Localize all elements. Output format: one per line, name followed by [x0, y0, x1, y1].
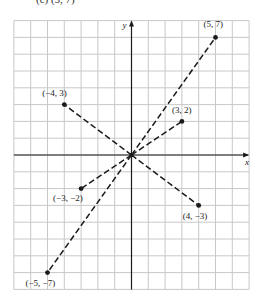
point-label: (−5, −7)	[26, 278, 56, 288]
dashed-segment	[48, 155, 132, 273]
point-label: (−4, 3)	[42, 88, 67, 98]
data-point	[62, 102, 67, 107]
dashed-segment	[132, 37, 216, 155]
point-label: (3, 2)	[172, 105, 192, 115]
point-label: (5, 7)	[204, 19, 224, 29]
data-point	[79, 186, 84, 191]
point-label: (4, −3)	[183, 211, 208, 221]
y-axis-label: y	[122, 20, 127, 30]
y-axis-arrow-icon	[129, 21, 134, 27]
data-point	[180, 119, 185, 124]
point-label: (−3, −2)	[53, 193, 83, 203]
data-point	[45, 270, 50, 275]
origin-point	[129, 153, 133, 157]
coordinate-plane: xy(5, 7)(−4, 3)(3, 2)(−3, −2)(4, −3)(−5,…	[0, 0, 262, 298]
data-point	[213, 35, 218, 40]
x-axis-label: x	[244, 157, 249, 167]
data-point	[196, 203, 201, 208]
